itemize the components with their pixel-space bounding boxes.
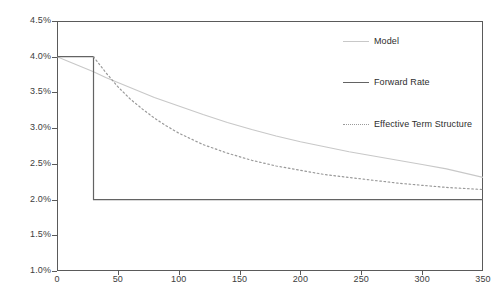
y-axis-tick-mark bbox=[52, 235, 57, 236]
legend-swatch-effective-term-structure-icon bbox=[343, 124, 369, 125]
y-axis-tick-label: 4.5% bbox=[5, 16, 51, 25]
y-axis-tick-mark bbox=[52, 271, 57, 272]
legend-swatch-model-icon bbox=[343, 41, 369, 42]
x-axis-tick-label: 100 bbox=[159, 275, 199, 284]
x-axis-tick-label: 50 bbox=[98, 275, 138, 284]
y-axis-tick-mark bbox=[52, 21, 57, 22]
x-axis-tick-label: 0 bbox=[37, 275, 77, 284]
series-line-model bbox=[57, 57, 483, 178]
y-axis-tick-label: 2.5% bbox=[5, 159, 51, 168]
y-axis-tick-label: 1.0% bbox=[5, 266, 51, 275]
y-axis-tick-mark bbox=[52, 57, 57, 58]
x-axis-tick-mark bbox=[422, 271, 423, 275]
y-axis-tick-label: 2.0% bbox=[5, 195, 51, 204]
x-axis-tick-label: 200 bbox=[280, 275, 320, 284]
plot-area bbox=[57, 21, 483, 271]
y-axis-tick-label: 1.5% bbox=[5, 230, 51, 239]
y-axis-tick-label: 3.0% bbox=[5, 123, 51, 132]
x-axis-tick-mark bbox=[118, 271, 119, 275]
legend-label-effective-term-structure: Effective Term Structure bbox=[374, 119, 472, 130]
legend-label-forward-rate: Forward Rate bbox=[374, 77, 430, 88]
x-axis-tick-label: 300 bbox=[402, 275, 442, 284]
x-axis-tick-mark bbox=[361, 271, 362, 275]
y-axis-tick-mark bbox=[52, 200, 57, 201]
y-axis-tick-mark bbox=[52, 128, 57, 129]
y-axis-tick-label: 3.5% bbox=[5, 87, 51, 96]
x-axis-tick-label: 350 bbox=[463, 275, 502, 284]
x-axis-tick-mark bbox=[240, 271, 241, 275]
legend-swatch-forward-rate-icon bbox=[343, 82, 369, 83]
y-axis-tick-label: 4.0% bbox=[5, 52, 51, 61]
legend-label-model: Model bbox=[374, 36, 399, 47]
x-axis-tick-label: 150 bbox=[220, 275, 260, 284]
y-axis-tick-mark bbox=[52, 92, 57, 93]
chart-container: 4.5%4.0%3.5%3.0%2.5%2.0%1.5%1.0% 0501001… bbox=[0, 0, 502, 302]
y-axis: 4.5%4.0%3.5%3.0%2.5%2.0%1.5%1.0% bbox=[0, 0, 51, 302]
x-axis-tick-label: 250 bbox=[341, 275, 381, 284]
x-axis-tick-mark bbox=[300, 271, 301, 275]
y-axis-tick-mark bbox=[52, 164, 57, 165]
x-axis-tick-mark bbox=[179, 271, 180, 275]
